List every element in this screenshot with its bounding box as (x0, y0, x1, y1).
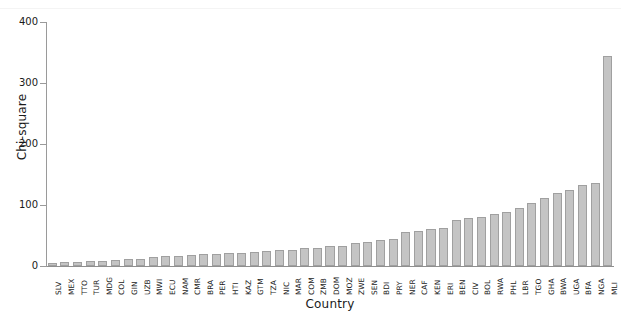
x-axis-tick-label: NER (409, 279, 417, 295)
x-axis-tick-label: ZMB (320, 278, 328, 295)
x-axis-tick-label: COL (118, 280, 126, 295)
bar (187, 255, 196, 266)
bar (288, 250, 297, 266)
bar (262, 251, 271, 266)
bar (149, 257, 158, 266)
x-axis-tick-label: MWI (156, 279, 164, 295)
bar (527, 203, 536, 266)
x-axis-tick-label: MOZ (346, 277, 354, 295)
x-axis-tick-labels: SLVMEXTTOTURMDGCOLGINUZBMWIECUNAMCMRBRAP… (46, 267, 614, 297)
x-axis-tick-label: BEN (459, 279, 467, 295)
bar (414, 231, 423, 266)
bar (124, 259, 133, 266)
bar (313, 248, 322, 266)
bar (250, 252, 259, 266)
y-axis-label: Chi-square (15, 77, 29, 177)
x-axis-tick-label: ECU (169, 279, 177, 295)
bar (86, 261, 95, 266)
y-axis-tick-label: 400 (0, 17, 38, 27)
bar (502, 212, 511, 266)
bar (136, 259, 145, 266)
bar (325, 246, 334, 266)
bar (389, 239, 398, 266)
x-axis-tick-label: UGA (573, 279, 581, 296)
x-axis-tick-label: PER (219, 280, 227, 295)
x-axis-tick-label: LBR (522, 280, 530, 295)
bar (98, 261, 107, 266)
x-axis-tick-label: ERI (447, 283, 455, 295)
chi-square-by-country-bar-chart: 0100200300400 Chi-square Country SLVMEXT… (0, 0, 621, 317)
x-axis-tick-label: BOL (484, 280, 492, 295)
bar (60, 262, 69, 266)
x-axis-tick-label: KAZ (245, 280, 253, 295)
bar (48, 263, 57, 266)
x-axis-tick-label: HTI (232, 282, 240, 295)
y-axis-tick-label: 100 (0, 200, 38, 210)
bar (515, 208, 524, 266)
bar (174, 256, 183, 266)
bar (224, 253, 233, 266)
x-axis-tick-label: TZA (270, 280, 278, 295)
bar (578, 185, 587, 266)
bar (591, 183, 600, 266)
bar (439, 228, 448, 266)
bar (426, 229, 435, 266)
bar (275, 250, 284, 266)
x-axis-tick-label: NGA (598, 278, 606, 295)
bar (237, 253, 246, 266)
x-axis-label: Country (46, 297, 614, 311)
x-axis-tick-label: BDI (383, 282, 391, 295)
bar (73, 262, 82, 266)
bar (199, 254, 208, 266)
x-axis-tick-label: CMR (194, 278, 202, 295)
y-axis-tick-label-text: 100 (4, 200, 38, 210)
bar (452, 220, 461, 266)
x-axis-tick-label: TTO (81, 280, 89, 295)
x-axis-tick-label: CAF (421, 280, 429, 295)
bar (603, 56, 612, 266)
x-axis-tick-label: BRA (207, 280, 215, 295)
x-axis-tick-label: MEX (68, 279, 76, 295)
x-axis-tick-label: GTM (257, 278, 265, 295)
x-axis-tick-label: KEN (434, 280, 442, 295)
bar (111, 260, 120, 266)
x-axis-tick-label: PRY (396, 281, 404, 295)
x-axis-tick-label: PHL (510, 281, 518, 295)
y-axis-tick-label: 0 (0, 261, 38, 271)
bar-series (46, 22, 614, 266)
x-axis-tick-label: UZB (144, 279, 152, 295)
x-axis-tick-label: BFA (585, 281, 593, 295)
cropped-caption-strip (0, 0, 621, 9)
bar (161, 256, 170, 266)
bar (464, 218, 473, 266)
x-axis-tick-label: RWA (497, 278, 505, 295)
x-axis-tick-label: COM (308, 277, 316, 295)
x-axis-tick-label: TUR (93, 280, 101, 295)
x-axis-tick-label: DOM (333, 277, 341, 295)
y-axis-tick-label-text: 0 (4, 261, 38, 271)
x-axis-tick-label: TGO (535, 279, 543, 295)
bar (338, 246, 347, 266)
bar (490, 214, 499, 266)
bar (212, 254, 221, 266)
bar (553, 193, 562, 266)
x-axis-tick-label: NIC (283, 282, 291, 295)
x-axis-tick-label: GHA (548, 278, 556, 295)
bar (477, 217, 486, 266)
x-axis-tick-label: NAM (182, 278, 190, 295)
x-axis-tick-label: MLI (611, 282, 619, 295)
bar (300, 248, 309, 266)
bar (351, 243, 360, 266)
x-axis-tick-label: SLV (55, 282, 63, 295)
x-axis-tick-label: MDG (106, 277, 114, 295)
x-axis-tick-label: CIV (472, 282, 480, 295)
x-axis-tick-label: ZWE (358, 278, 366, 295)
bar (363, 242, 372, 266)
x-axis-tick-label: BWA (560, 278, 568, 295)
x-axis-tick-label: MAR (295, 278, 303, 295)
y-axis-tick-label-text: 400 (4, 17, 38, 27)
bar (540, 198, 549, 266)
x-axis-tick-label: SEN (371, 280, 379, 295)
bar (401, 232, 410, 266)
bar (565, 190, 574, 266)
